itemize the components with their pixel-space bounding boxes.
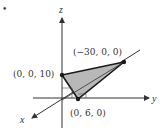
bullet: • — [2, 4, 7, 14]
point-label-x: (−30, 0, 0) — [73, 47, 122, 57]
vertex-point — [76, 97, 80, 101]
point-label-z: (0, 0, 10) — [13, 69, 54, 79]
y-axis-label: y — [151, 93, 157, 104]
vertex-point — [122, 60, 126, 64]
z-axis-label: z — [58, 4, 63, 15]
point-label-y: (0, 6, 0) — [70, 108, 106, 118]
vertex-point — [60, 73, 64, 77]
x-axis-label: x — [19, 114, 25, 125]
3d-triangle-diagram: • z y x (0, 0, 10) (−30, 0, 0) (0, 6, 0) — [0, 0, 164, 136]
